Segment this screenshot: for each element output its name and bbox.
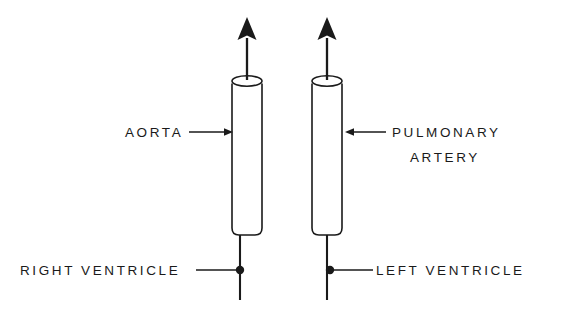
aorta-group: AORTA RIGHT VENTRICLE xyxy=(20,17,262,300)
pulmonary-artery-leader-arrowhead xyxy=(345,128,354,135)
left-ventricle-label: LEFT VENTRICLE xyxy=(376,263,525,278)
aortic-flow-arrowhead xyxy=(238,17,257,40)
pulmonary-artery-cylinder-body xyxy=(312,84,342,235)
right-ventricle-label: RIGHT VENTRICLE xyxy=(20,263,180,278)
left-ventricle-dot xyxy=(326,266,334,274)
pulmonary-artery-group: PULMONARY ARTERY LEFT VENTRICLE xyxy=(312,17,525,300)
pulmonary-flow-arrowhead xyxy=(318,17,337,40)
aorta-label: AORTA xyxy=(125,125,183,140)
pulmonary-artery-label-line2: ARTERY xyxy=(410,150,480,165)
diagram-canvas: AORTA RIGHT VENTRICLE PULMONARY xyxy=(0,0,561,318)
pulmonary-artery-label-line1: PULMONARY xyxy=(392,125,501,140)
anatomical-diagram: AORTA RIGHT VENTRICLE PULMONARY xyxy=(0,0,561,318)
right-ventricle-dot xyxy=(236,266,244,274)
aorta-cylinder-body xyxy=(232,84,262,235)
